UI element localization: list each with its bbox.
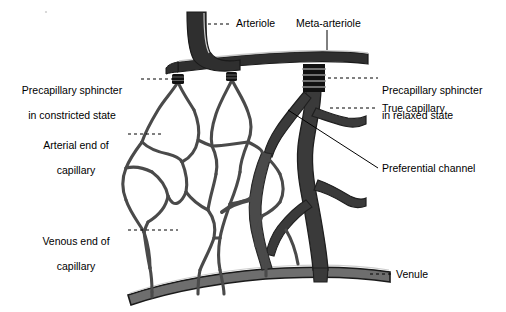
label-preferential-channel: Preferential channel [382, 162, 475, 175]
label-arterial-end-line2: capillary [57, 164, 96, 176]
label-sphincter-constricted-line1: Precapillary sphincter [22, 84, 122, 96]
label-venule: Venule [396, 268, 428, 281]
label-meta-arteriole: Meta-arteriole [296, 17, 361, 30]
label-venous-end-line1: Venous end of [42, 235, 109, 247]
sphincter-relaxed [302, 64, 326, 92]
label-venous-end-line2: capillary [57, 260, 96, 272]
diagram-canvas: Arteriole Meta-arteriole Precapillary sp… [0, 0, 506, 312]
label-arterial-end: Arterial end of capillary [26, 126, 126, 176]
label-arterial-end-line1: Arterial end of [43, 139, 108, 151]
venule-vessel [128, 265, 390, 305]
capillary-network [123, 80, 298, 297]
label-sphincter-constricted-line2: in constricted state [28, 109, 116, 121]
label-venous-end: Venous end of capillary [26, 222, 126, 272]
sphincter-constricted-left [172, 74, 184, 84]
scan-artifact [45, 11, 47, 13]
label-sphincter-relaxed-line1: Precapillary sphincter [382, 84, 482, 96]
label-true-capillary: True capillary [382, 102, 445, 115]
capillary-thick-branch [222, 152, 272, 270]
label-arteriole: Arteriole [236, 17, 275, 30]
label-sphincter-constricted: Precapillary sphincter in constricted st… [6, 71, 138, 121]
sphincter-constricted-mid [226, 72, 237, 81]
